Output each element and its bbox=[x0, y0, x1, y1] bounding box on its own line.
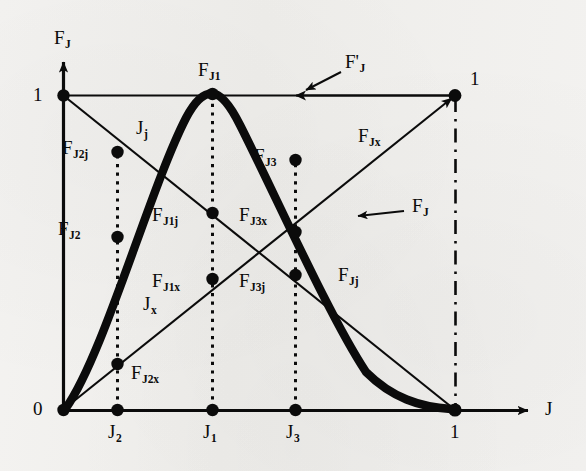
label-fj2: FJ2 bbox=[58, 219, 80, 238]
point-fj1 bbox=[206, 88, 218, 100]
point-fj1x bbox=[206, 273, 218, 285]
label-fj1j: FJ1j bbox=[152, 205, 177, 224]
tick-point-j1 bbox=[206, 404, 218, 416]
label-jx: Jx bbox=[143, 294, 156, 313]
y-axis-label: FJ bbox=[54, 28, 70, 47]
point-origin-top bbox=[57, 89, 69, 101]
callout-arrow-fj bbox=[358, 211, 404, 216]
point-fj2j bbox=[111, 146, 123, 158]
point-fj3j bbox=[289, 269, 301, 281]
x-tick-j2: J2 bbox=[108, 422, 121, 441]
corner-tick-one: 1 bbox=[470, 69, 480, 88]
point-fj2x bbox=[111, 358, 123, 370]
label-f-prime-j: F'J bbox=[345, 52, 365, 71]
label-fj3x: FJ3x bbox=[239, 205, 266, 224]
tick-point-j3 bbox=[289, 404, 301, 416]
origin-label: 0 bbox=[33, 399, 43, 418]
callout-arrow-f-prime-j bbox=[306, 72, 341, 90]
point-origin bbox=[57, 404, 69, 416]
label-fjx: FJx bbox=[358, 126, 380, 145]
x-axis-label: J bbox=[545, 399, 552, 418]
label-fj-callout: FJ bbox=[412, 196, 428, 215]
diagram-svg bbox=[0, 0, 586, 471]
figure-canvas: FJ J 1 0 1 J2 J1 J3 1 FJ1 FJ2j FJ2 FJ3 F… bbox=[0, 0, 586, 471]
x-tick-one: 1 bbox=[450, 422, 460, 441]
label-fj3: FJ3 bbox=[254, 146, 276, 165]
y-tick-one: 1 bbox=[33, 85, 43, 104]
label-fjj: FJj bbox=[338, 265, 358, 284]
vertical-guides bbox=[118, 96, 296, 408]
label-fj1: FJ1 bbox=[198, 60, 220, 79]
point-fj3x bbox=[289, 226, 301, 238]
callout-arrows bbox=[306, 72, 404, 216]
label-fj3j: FJ3j bbox=[239, 271, 264, 290]
point-fj3 bbox=[289, 154, 301, 166]
x-tick-j3: J3 bbox=[286, 422, 299, 441]
label-fj2x: FJ2x bbox=[131, 363, 158, 382]
point-corner-one-one bbox=[449, 89, 462, 102]
label-jj: Jj bbox=[136, 118, 147, 137]
point-one-zero bbox=[448, 403, 461, 416]
x-tick-j1: J1 bbox=[203, 422, 216, 441]
tick-point-j2 bbox=[111, 404, 123, 416]
label-fj2j: FJ2j bbox=[62, 138, 87, 157]
point-fj2 bbox=[111, 231, 123, 243]
label-fj1x: FJ1x bbox=[152, 271, 179, 290]
point-fj1j bbox=[206, 207, 218, 219]
